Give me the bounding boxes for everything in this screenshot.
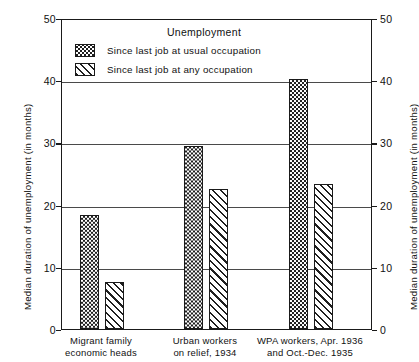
y-tick-mark-right-50 — [372, 19, 377, 20]
category-label-3-line2: and Oct.-Dec. 1935 — [240, 347, 380, 359]
y-tick-label-left-20: 20 — [44, 201, 56, 212]
y-tick-mark-right-10 — [372, 268, 377, 269]
y-tick-label-right-20: 20 — [380, 201, 392, 212]
gridline-30 — [62, 144, 371, 145]
y-tick-label-right-30: 30 — [380, 138, 392, 149]
bar-group1-usual-occupation — [80, 215, 99, 329]
y-tick-mark-right-0 — [372, 330, 377, 331]
legend-label-usual-occupation: Since last job at usual occupation — [107, 45, 261, 56]
y-axis-title-right: Median duration of unemployment (in mont… — [408, 104, 419, 310]
y-tick-mark-right-20 — [372, 206, 377, 207]
legend-title: Unemployment — [103, 26, 305, 38]
y-tick-mark-right-40 — [372, 81, 377, 82]
y-tick-label-right-40: 40 — [380, 76, 392, 87]
y-tick-label-left-30: 30 — [44, 138, 56, 149]
y-tick-mark-left-0 — [56, 330, 61, 331]
legend-label-any-occupation: Since last job at any occupation — [107, 64, 253, 75]
y-tick-label-right-10: 10 — [380, 263, 392, 274]
bar-group2-usual-occupation — [184, 146, 203, 329]
bar-group3-usual-occupation — [289, 79, 308, 329]
gridline-40 — [62, 82, 371, 83]
legend-item-any-occupation: Since last job at any occupation — [75, 63, 305, 76]
y-tick-label-left-50: 50 — [44, 14, 56, 25]
y-tick-mark-right-30 — [372, 143, 377, 144]
y-tick-label-left-40: 40 — [44, 76, 56, 87]
bar-group2-any-occupation — [209, 189, 228, 329]
y-tick-label-right-50: 50 — [380, 14, 392, 25]
legend-item-usual-occupation: Since last job at usual occupation — [75, 44, 305, 57]
category-label-3-line1: WPA workers, Apr. 1936 — [240, 335, 380, 347]
bar-group1-any-occupation — [105, 282, 124, 329]
legend-swatch-checkerboard — [75, 44, 95, 57]
legend-swatch-diagonal-hatch — [75, 63, 95, 76]
y-tick-label-left-10: 10 — [44, 263, 56, 274]
legend: Unemployment Since last job at usual occ… — [75, 26, 305, 82]
bar-group3-any-occupation — [314, 184, 333, 329]
category-label-3: WPA workers, Apr. 1936and Oct.-Dec. 1935 — [240, 335, 380, 359]
y-tick-label-right-0: 0 — [380, 325, 386, 336]
y-axis-title-left: Median duration of unemployment (in mont… — [22, 104, 33, 310]
